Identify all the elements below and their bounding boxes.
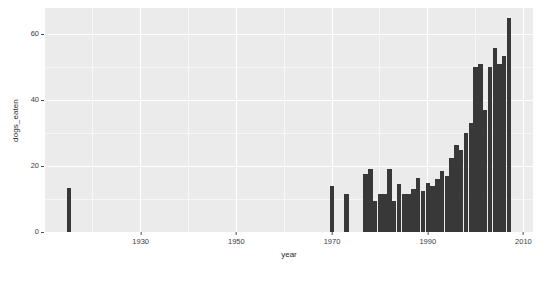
bar: [416, 178, 420, 232]
bar: [449, 158, 453, 232]
gridline-vertical: [523, 8, 524, 232]
x-axis-tick-mark: [236, 232, 237, 235]
bar: [330, 186, 334, 232]
gridline-vertical-minor: [284, 8, 285, 232]
x-axis-tick: 1930: [132, 232, 149, 246]
gridline-horizontal-minor: [45, 133, 533, 134]
y-axis-tick-label: 20: [31, 161, 41, 171]
y-axis-tick-mark: [41, 232, 44, 233]
x-axis-tick: 2010: [515, 232, 532, 246]
bar: [445, 176, 449, 232]
bar: [483, 110, 487, 232]
x-axis-tick-label: 1950: [228, 237, 245, 246]
bar: [488, 67, 492, 232]
y-axis: 0204060: [0, 0, 45, 281]
bar: [497, 64, 501, 232]
gridline-vertical-minor: [188, 8, 189, 232]
y-axis-tick: 20: [31, 161, 45, 171]
bar: [387, 169, 391, 232]
gridline-vertical-minor: [92, 8, 93, 232]
bar: [435, 179, 439, 232]
bar: [382, 194, 386, 232]
x-axis-tick-label: 1930: [132, 237, 149, 246]
x-axis-tick: 1970: [324, 232, 341, 246]
bar: [378, 194, 382, 232]
bar: [426, 183, 430, 232]
y-axis-tick-label: 40: [31, 95, 41, 105]
bar: [430, 186, 434, 232]
bar: [464, 133, 468, 232]
y-axis-tick-mark: [41, 100, 44, 101]
bar: [363, 174, 367, 232]
x-axis-tick-mark: [140, 232, 141, 235]
bar: [344, 194, 348, 232]
y-axis-tick: 0: [35, 227, 45, 237]
x-axis-tick: 1950: [228, 232, 245, 246]
gridline-horizontal-minor: [45, 67, 533, 68]
bar: [406, 194, 410, 232]
x-axis-tick-label: 1990: [419, 237, 436, 246]
x-axis: 19301950197019902010: [45, 232, 533, 252]
x-axis-tick-mark: [523, 232, 524, 235]
bar: [493, 48, 497, 232]
gridline-vertical: [236, 8, 237, 232]
y-axis-tick: 40: [31, 95, 45, 105]
x-axis-tick-mark: [427, 232, 428, 235]
bar: [373, 201, 377, 232]
x-axis-tick: 1990: [419, 232, 436, 246]
y-axis-tick-label: 60: [31, 29, 41, 39]
gridline-vertical: [140, 8, 141, 232]
bar: [421, 191, 425, 232]
bar: [397, 184, 401, 232]
x-axis-tick-label: 2010: [515, 237, 532, 246]
bar: [402, 194, 406, 232]
bar: [440, 171, 444, 232]
bar: [473, 67, 477, 232]
bar-chart: dogs_eaten 0204060 19301950197019902010 …: [0, 0, 558, 281]
bar: [502, 56, 506, 232]
y-axis-tick: 60: [31, 29, 45, 39]
gridline-horizontal: [45, 34, 533, 35]
bar: [392, 201, 396, 232]
x-axis-tick-mark: [332, 232, 333, 235]
y-axis-tick-mark: [41, 166, 44, 167]
bar: [454, 145, 458, 232]
bar: [459, 150, 463, 232]
y-axis-tick-mark: [41, 34, 44, 35]
bar: [411, 189, 415, 232]
bar: [67, 188, 71, 232]
bar: [368, 169, 372, 232]
bar: [469, 123, 473, 232]
x-axis-title: year: [45, 250, 533, 259]
x-axis-tick-label: 1970: [324, 237, 341, 246]
bar: [478, 64, 482, 232]
plot-panel: [45, 8, 533, 232]
bar: [507, 18, 511, 232]
gridline-horizontal: [45, 100, 533, 101]
